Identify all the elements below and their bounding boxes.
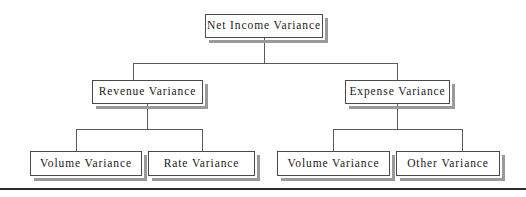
node-label: Volume Variance <box>36 158 136 170</box>
footer-rule <box>0 188 526 190</box>
connector-revenue-drop <box>147 104 148 129</box>
node-label: Revenue Variance <box>95 86 201 98</box>
connector-to-other-variance <box>462 129 463 151</box>
connector-to-revenue-variance <box>133 63 134 80</box>
node-volume-variance-left: Volume Variance <box>30 151 142 176</box>
node-expense-variance: Expense Variance <box>345 80 450 104</box>
connector-right-leaf-bus <box>333 129 462 130</box>
node-label: Net Income Variance <box>203 20 325 32</box>
connector-level2-bus <box>133 63 397 64</box>
variance-tree-diagram: Net Income Variance Revenue Variance Exp… <box>0 0 526 197</box>
connector-left-leaf-bus <box>76 129 202 130</box>
node-volume-variance-right: Volume Variance <box>277 151 390 176</box>
node-label: Rate Variance <box>160 158 244 170</box>
node-label: Other Variance <box>403 158 493 170</box>
node-rate-variance: Rate Variance <box>148 151 255 176</box>
connector-expense-drop <box>397 104 398 129</box>
connector-to-rate-variance <box>202 129 203 151</box>
node-net-income-variance: Net Income Variance <box>205 14 323 38</box>
connector-to-volume-variance-right <box>333 129 334 151</box>
connector-to-expense-variance <box>397 63 398 80</box>
connector-root-drop <box>264 38 265 63</box>
node-other-variance: Other Variance <box>396 151 500 176</box>
node-label: Volume Variance <box>284 158 384 170</box>
node-revenue-variance: Revenue Variance <box>92 80 203 104</box>
connector-to-volume-variance-left <box>76 129 77 151</box>
node-label: Expense Variance <box>345 86 449 98</box>
